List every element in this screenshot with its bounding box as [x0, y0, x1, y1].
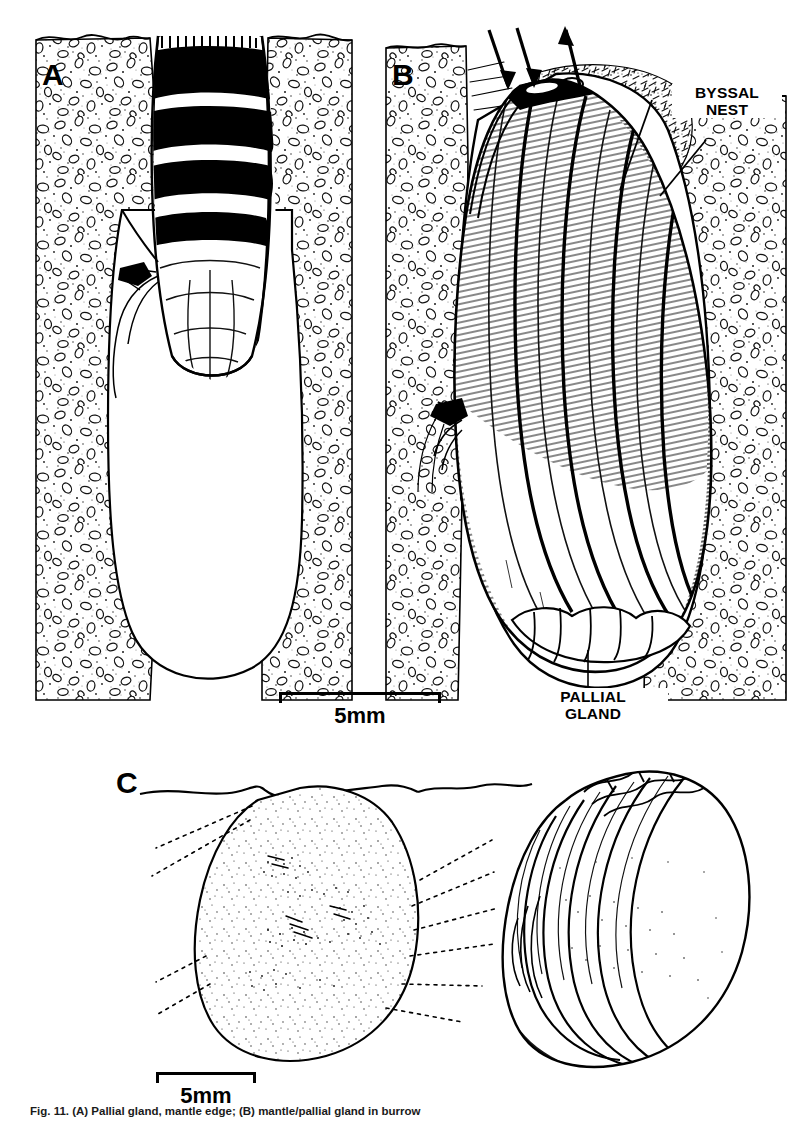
panel-c-gland-illustration [140, 780, 532, 1080]
scale-bar-ab-tick-right [438, 692, 441, 703]
scale-bar-c: 5mm [156, 1072, 256, 1104]
scale-bar-c-label: 5mm [156, 1083, 256, 1109]
scale-bar-c-tick-right [253, 1072, 256, 1083]
scale-bar-ab-label: 5mm [279, 703, 441, 729]
callout-byssal-nest: BYSSAL NEST [672, 84, 782, 118]
panel-label-b: B [392, 60, 414, 90]
panel-a-illustration [36, 20, 352, 700]
figure-root: A B C BYSSAL NEST PALLIAL GLAND 5mm 5mm … [0, 0, 798, 1123]
figure-illustration [0, 0, 798, 1123]
scale-bar-ab: 5mm [279, 692, 441, 726]
panel-label-c: C [116, 768, 138, 798]
panel-label-a: A [42, 60, 64, 90]
panel-b-illustration [386, 26, 786, 700]
figure-caption-number: Fig. 11. [30, 1105, 69, 1117]
panel-c-shell-illustration [490, 758, 770, 1090]
callout-pallial-gland: PALLIAL GLAND [518, 688, 668, 722]
scale-bar-ab-line [279, 692, 441, 695]
figure-caption: Fig. 11. (A) Pallial gland, mantle edge;… [30, 1104, 772, 1122]
scale-bar-c-tick-left [156, 1072, 159, 1083]
scale-bar-c-line [156, 1072, 256, 1075]
scale-bar-ab-tick-left [279, 692, 282, 703]
